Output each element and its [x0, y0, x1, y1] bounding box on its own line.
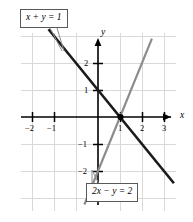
y-axis-arrow: [95, 38, 102, 46]
y-tick-label-1: 1: [84, 86, 88, 95]
x-tick-label-2: 2: [140, 124, 144, 133]
axis-lines: [21, 40, 171, 205]
y-tick-label-2: 2: [84, 59, 88, 68]
callout-x-plus-y-equals-1: x + y = 1: [20, 9, 68, 28]
y-tick-label--1: −1: [78, 140, 87, 149]
y-axis-label: y: [101, 28, 105, 38]
intersection-point: [117, 114, 123, 120]
x-tick-label-1: 1: [118, 124, 122, 133]
callout-2x-minus-y-equals-2: 2x − y = 2: [86, 183, 138, 202]
x-tick-label--2: −2: [25, 124, 34, 133]
x-tick-label--1: −1: [47, 124, 56, 133]
y-tick-label--2: −2: [78, 167, 87, 176]
x-tick-label-3: 3: [162, 124, 166, 133]
x-axis-label: x: [180, 111, 184, 121]
line-x-plus-y-equals-1: [49, 29, 174, 183]
graph-figure: x y −2 −1 1 2 3 2 1 −1 −2 x + y = 1 2x −…: [0, 0, 193, 222]
